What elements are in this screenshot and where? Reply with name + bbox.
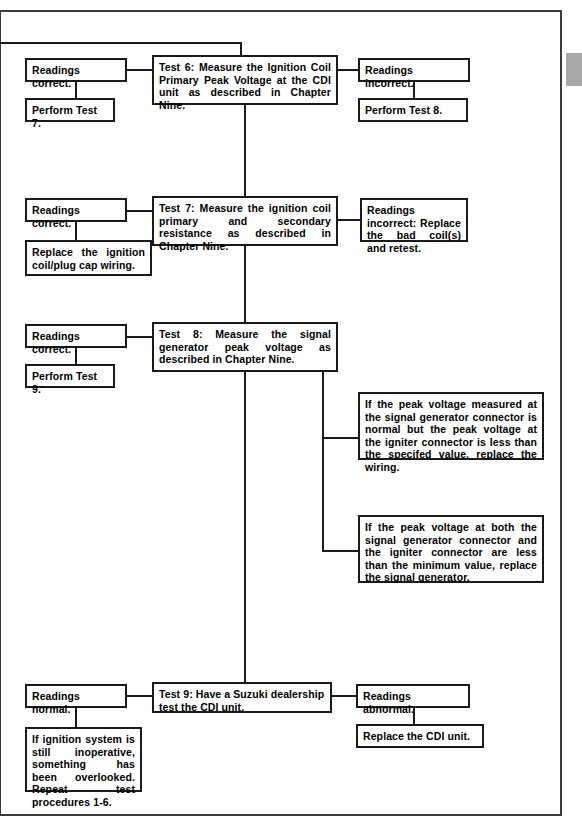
node-test7-readings-correct: Readings correct.: [25, 198, 127, 222]
node-test8-readings-correct: Readings correct.: [25, 324, 127, 348]
connector-test7-left-down: [75, 221, 77, 241]
connector-test7-to-left: [127, 210, 154, 212]
node-test8-perform-test9: Perform Test 9.: [25, 364, 115, 388]
connector-test8-to-left: [127, 336, 154, 338]
connector-test9-left-down: [75, 707, 77, 728]
node-test6-perform-test8: Perform Test 8.: [358, 98, 468, 122]
connector-test9-right-down: [413, 707, 415, 725]
connector-test6-right-down: [413, 81, 415, 99]
connector-test7-to-right: [336, 219, 362, 221]
node-test8-note-wiring: If the peak voltage measured at the sign…: [358, 392, 544, 460]
node-test9: Test 9: Have a Suzuki dealership test th…: [152, 682, 332, 713]
node-test6-perform-test7: Perform Test 7.: [25, 98, 115, 122]
connector-test7-to-test8: [244, 244, 246, 324]
connector-test8-notes-spine: [322, 370, 324, 552]
page-border-bottom: [0, 814, 562, 816]
chapter-tab-marker: [566, 53, 582, 86]
node-test9-replace-cdi: Replace the CDI unit.: [356, 724, 484, 748]
flowchart-page: Test 6: Measure the Ignition Coil Primar…: [0, 0, 582, 833]
connector-test6-to-test7: [244, 103, 246, 201]
connector-test8-left-down: [75, 347, 77, 365]
connector-test6-to-left: [127, 69, 154, 71]
connector-test6-to-right: [336, 69, 360, 71]
node-test8: Test 8: Measure the signal generator pea…: [152, 322, 338, 372]
node-test9-readings-abnormal: Readings abnormal.: [356, 684, 470, 708]
node-test6: Test 6: Measure the Ignition Coil Primar…: [152, 55, 338, 105]
connector-test9-to-right: [330, 695, 358, 697]
node-test8-note-signal-generator: If the peak voltage at both the signal g…: [358, 515, 544, 583]
node-test6-readings-correct: Readings correct.: [25, 58, 127, 82]
node-test7-replace-coils: Readings incorrect: Replace the bad coil…: [360, 198, 468, 242]
node-test7: Test 7: Measure the ignition coil primar…: [152, 196, 338, 246]
connector-test9-to-left: [127, 695, 154, 697]
connector-test8-note2: [322, 550, 360, 552]
page-border-top: [0, 10, 562, 12]
node-test9-readings-normal: Readings normal.: [25, 684, 127, 708]
connector-test8-note1: [322, 437, 360, 439]
connector-incoming-horizontal: [0, 42, 242, 44]
node-test6-readings-incorrect: Readings incorrect.: [358, 58, 470, 82]
connector-test8-to-test9: [244, 370, 246, 682]
node-test9-overlooked-note: If ignition system is still inoperative,…: [25, 727, 142, 792]
node-test7-replace-wiring: Replace the ignition coil/plug cap wirin…: [25, 240, 152, 276]
page-border-left: [0, 10, 1, 816]
connector-test6-left-down: [75, 81, 77, 99]
page-border-right: [560, 10, 562, 816]
